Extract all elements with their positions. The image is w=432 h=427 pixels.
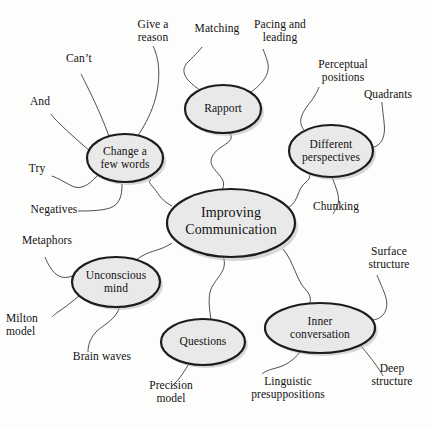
- connector-center-to-questions: [209, 256, 224, 320]
- node-hit-center[interactable]: [167, 189, 295, 257]
- connector-perspectives-to-quadrants: [371, 102, 384, 148]
- connector-center-to-unconscious-mind: [133, 243, 172, 262]
- node-hit-inner-conversation[interactable]: [265, 303, 375, 353]
- connector-inner-to-linguistic-presuppositions: [262, 352, 300, 374]
- connector-change-to-cant: [81, 74, 110, 139]
- node-hit-unconscious-mind[interactable]: [72, 257, 160, 307]
- node-hit-questions[interactable]: [161, 319, 245, 365]
- leaf-label-try: Try: [12, 162, 62, 175]
- leaf-label-metaphors: Metaphors: [8, 234, 86, 247]
- leaf-label-deep-structure: Deep structure: [358, 362, 426, 388]
- leaf-label-and: And: [11, 95, 69, 108]
- leaf-label-surface-structure: Surface structure: [352, 245, 426, 271]
- connector-center-to-rapport: [211, 133, 231, 190]
- node-hit-change-a-few-words[interactable]: [87, 134, 163, 182]
- connector-center-to-inner-conversation: [283, 249, 310, 304]
- connector-unconscious-to-metaphors: [45, 257, 76, 277]
- connector-change-to-try: [52, 176, 97, 188]
- leaf-label-chunking: Chunking: [300, 200, 372, 213]
- connector-change-to-give-a-reason: [137, 46, 159, 137]
- node-hit-different-perspectives[interactable]: [289, 125, 373, 177]
- mind-map-diagram: Improving Communication Change a few wor…: [0, 0, 432, 427]
- leaf-label-quadrants: Quadrants: [350, 88, 426, 101]
- leaf-label-brain-waves: Brain waves: [58, 350, 146, 363]
- connector-perspectives-to-perceptual-positions: [301, 87, 319, 130]
- leaf-label-negatives: Negatives: [16, 203, 92, 216]
- connector-rapport-to-matching: [184, 47, 202, 90]
- node-hit-rapport[interactable]: [185, 85, 261, 133]
- connector-rapport-to-pacing-and-leading: [248, 49, 268, 94]
- leaf-label-precision-model: Precision model: [134, 379, 208, 405]
- connector-center-to-change-a-few-words: [150, 180, 172, 206]
- leaf-label-linguistic-presuppositions: Linguistic presuppositions: [232, 375, 344, 401]
- leaf-label-cant: Can’t: [44, 52, 114, 65]
- leaf-label-milton-model: Milton model: [6, 312, 68, 338]
- leaf-label-pacing-and-leading: Pacing and leading: [240, 18, 320, 44]
- connector-change-to-and: [51, 114, 91, 152]
- connector-unconscious-to-brain-waves: [88, 306, 120, 352]
- leaf-label-perceptual-positions: Perceptual positions: [302, 58, 384, 84]
- connector-inner-to-surface-structure: [373, 275, 387, 320]
